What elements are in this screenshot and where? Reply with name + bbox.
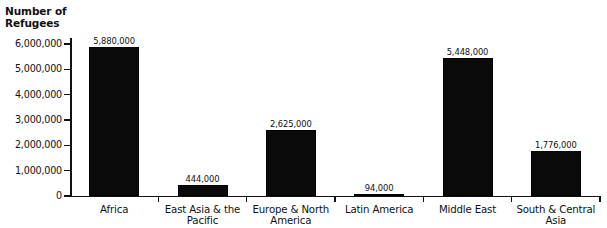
category-label: Africa bbox=[64, 204, 164, 215]
y-axis-tick-label: 0 bbox=[0, 190, 62, 201]
y-axis-line bbox=[70, 38, 72, 197]
bar bbox=[89, 47, 139, 196]
category-label: Middle East bbox=[418, 204, 518, 215]
x-axis-tick bbox=[423, 196, 425, 202]
category-label: South & Central Asia bbox=[506, 204, 606, 227]
x-axis-tick bbox=[334, 196, 336, 202]
category-label: Europe & North America bbox=[241, 204, 341, 227]
y-axis-tick bbox=[64, 170, 70, 172]
y-axis-title: Number of Refugees bbox=[5, 5, 95, 29]
x-axis-tick bbox=[599, 196, 601, 202]
bar bbox=[531, 151, 581, 196]
y-axis-tick-label: 6,000,000 bbox=[0, 38, 62, 49]
y-axis-tick bbox=[64, 94, 70, 96]
bar-value-label: 94,000 bbox=[334, 183, 424, 193]
bar-value-label: 444,000 bbox=[158, 174, 248, 184]
bar bbox=[443, 58, 493, 196]
refugees-bar-chart: Number of Refugees 6,000,0005,000,0004,0… bbox=[0, 0, 607, 228]
x-axis-tick bbox=[158, 196, 160, 202]
y-axis-tick-label: 1,000,000 bbox=[0, 165, 62, 176]
category-label: East Asia & the Pacific bbox=[153, 204, 253, 227]
bar-value-label: 5,880,000 bbox=[69, 36, 159, 46]
y-axis-tick bbox=[64, 119, 70, 121]
bar-value-label: 2,625,000 bbox=[246, 119, 336, 129]
y-axis-tick-label: 2,000,000 bbox=[0, 139, 62, 150]
y-axis-tick-label: 4,000,000 bbox=[0, 89, 62, 100]
category-label: Latin America bbox=[329, 204, 429, 215]
y-axis-tick bbox=[64, 195, 70, 197]
bar-value-label: 5,448,000 bbox=[423, 47, 513, 57]
bar bbox=[178, 185, 228, 196]
x-axis-tick bbox=[511, 196, 513, 202]
y-axis-tick-label: 5,000,000 bbox=[0, 63, 62, 74]
y-axis-tick bbox=[64, 145, 70, 147]
bar bbox=[354, 194, 404, 197]
y-axis-tick bbox=[64, 69, 70, 71]
bar bbox=[266, 130, 316, 197]
y-axis-tick-label: 3,000,000 bbox=[0, 114, 62, 125]
bar-value-label: 1,776,000 bbox=[511, 140, 601, 150]
x-axis-tick bbox=[246, 196, 248, 202]
